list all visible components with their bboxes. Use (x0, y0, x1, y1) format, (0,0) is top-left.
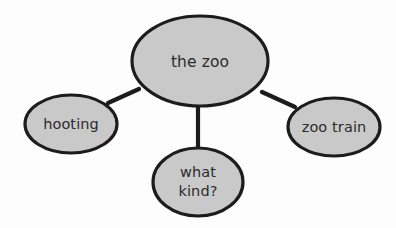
node-what-kind-label-line1: what (180, 164, 216, 180)
node-hooting-label: hooting (43, 116, 99, 132)
node-central-the-zoo[interactable]: the zoo (132, 16, 268, 106)
node-zoo-train[interactable]: zoo train (288, 98, 380, 156)
connector-central-to-zoo-train (262, 92, 295, 107)
node-what-kind[interactable]: what kind? (153, 148, 243, 216)
concept-map-diagram: hooting zoo train what kind? the zoo (0, 0, 396, 228)
concept-map-canvas: hooting zoo train what kind? the zoo (0, 0, 396, 228)
connector-central-to-hooting (108, 89, 139, 103)
node-central-label: the zoo (171, 53, 229, 71)
node-what-kind-label-line2: kind? (178, 183, 217, 199)
node-hooting[interactable]: hooting (25, 95, 117, 153)
node-zoo-train-label: zoo train (302, 119, 367, 135)
node-what-kind-shape[interactable] (153, 148, 243, 216)
